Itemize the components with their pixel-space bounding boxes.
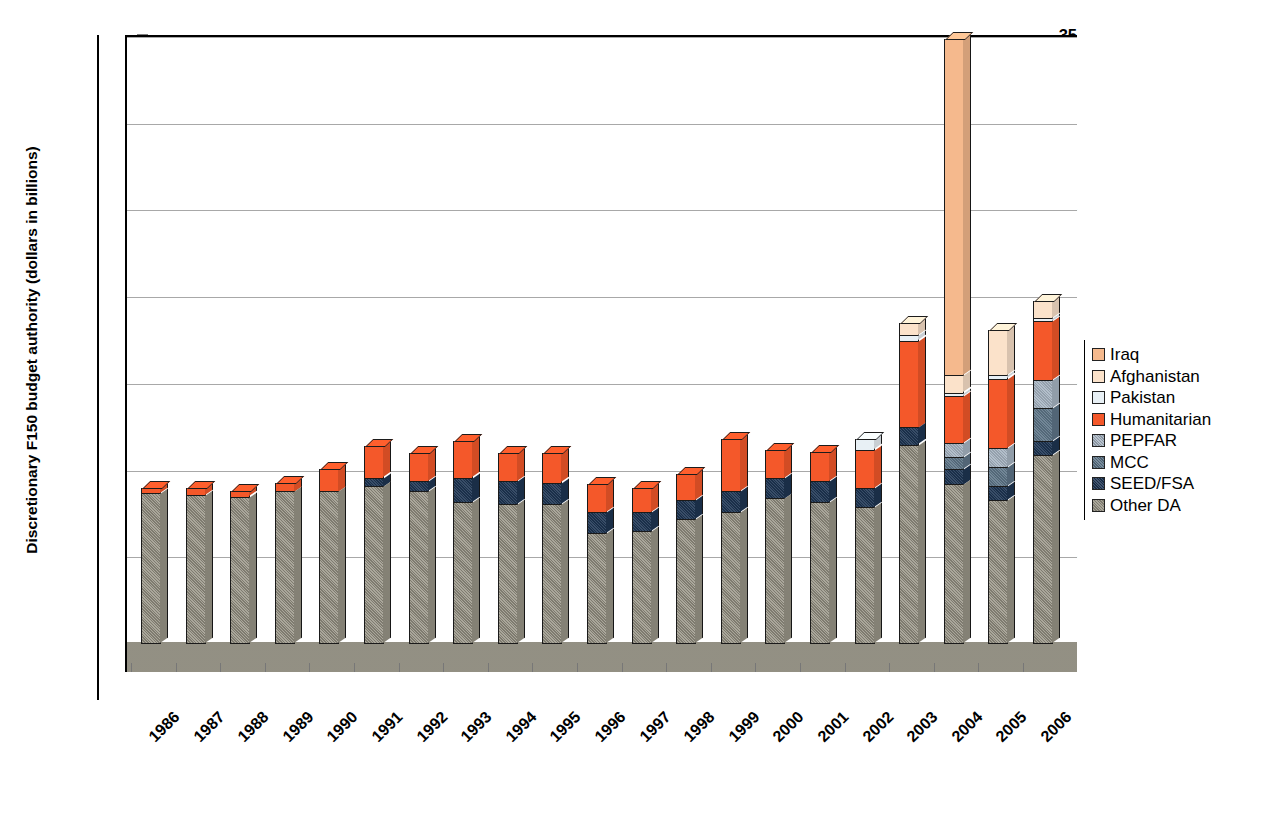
bar-segment[interactable] xyxy=(855,439,875,449)
bar-segment[interactable] xyxy=(721,512,741,644)
bar-stack[interactable] xyxy=(319,469,339,644)
bar-stack[interactable] xyxy=(1033,301,1053,644)
bar-segment[interactable] xyxy=(988,486,1008,500)
bar-segment[interactable] xyxy=(988,379,1008,448)
bar-segment[interactable] xyxy=(944,469,964,485)
legend-item-seed-fsa[interactable]: SEED/FSA xyxy=(1092,473,1282,495)
bar-stack[interactable] xyxy=(676,474,696,644)
legend-item-iraq[interactable]: Iraq xyxy=(1092,344,1282,366)
bar-segment[interactable] xyxy=(364,486,384,644)
legend-item-humanitarian[interactable]: Humanitarian xyxy=(1092,409,1282,431)
bar-segment[interactable] xyxy=(899,341,919,428)
bar-segment[interactable] xyxy=(899,323,919,335)
bar-segment[interactable] xyxy=(364,478,384,487)
bar-segment[interactable] xyxy=(1033,321,1053,380)
bar-segment[interactable] xyxy=(275,491,295,644)
legend-item-mcc[interactable]: MCC xyxy=(1092,452,1282,474)
bar-segment[interactable] xyxy=(453,441,473,477)
bar-segment[interactable] xyxy=(275,483,295,492)
bar-segment[interactable] xyxy=(364,446,384,477)
bar-segment[interactable] xyxy=(587,484,607,512)
bar-stack[interactable] xyxy=(409,453,429,644)
bar-segment[interactable] xyxy=(721,439,741,491)
bar-segment[interactable] xyxy=(1033,408,1053,441)
bar-segment[interactable] xyxy=(721,491,741,512)
bar-stack[interactable] xyxy=(810,452,830,644)
bar-segment[interactable] xyxy=(141,493,161,644)
bar-segment[interactable] xyxy=(899,445,919,644)
bar-segment[interactable] xyxy=(899,427,919,444)
bar-segment[interactable] xyxy=(409,491,429,644)
x-axis-label: 1990 xyxy=(324,708,362,746)
bar-segment[interactable] xyxy=(186,495,206,644)
bar-segment[interactable] xyxy=(1033,441,1053,455)
bar-stack[interactable] xyxy=(498,453,518,644)
bar-segment[interactable] xyxy=(944,457,964,469)
bar-segment[interactable] xyxy=(498,504,518,644)
bar-stack[interactable] xyxy=(587,484,607,644)
bar-segment[interactable] xyxy=(855,488,875,507)
bar-segment[interactable] xyxy=(1033,455,1053,644)
bar-segment[interactable] xyxy=(988,330,1008,375)
bar-segment[interactable] xyxy=(855,507,875,644)
bar-segment[interactable] xyxy=(319,469,339,492)
bar-stack[interactable] xyxy=(632,488,652,644)
bar-segment[interactable] xyxy=(810,452,830,481)
bar-stack[interactable] xyxy=(988,330,1008,644)
bar-stack[interactable] xyxy=(364,446,384,644)
bar-segment[interactable] xyxy=(498,481,518,504)
bar-stack[interactable] xyxy=(855,439,875,644)
bar-stack[interactable] xyxy=(275,483,295,644)
bar-segment[interactable] xyxy=(542,453,562,482)
bar-segment[interactable] xyxy=(944,484,964,644)
bar-stack[interactable] xyxy=(453,441,473,644)
bar-segment[interactable] xyxy=(988,467,1008,486)
bar-segment[interactable] xyxy=(676,519,696,644)
bar-segment[interactable] xyxy=(542,504,562,644)
bar-stack[interactable] xyxy=(542,453,562,644)
bar-segment[interactable] xyxy=(765,498,785,644)
bar-segment[interactable] xyxy=(765,478,785,499)
x-tick-mark xyxy=(934,663,935,672)
bar-segment[interactable] xyxy=(944,396,964,443)
bar-segment[interactable] xyxy=(542,483,562,504)
bar-segment[interactable] xyxy=(810,502,830,644)
bar-stack[interactable] xyxy=(721,439,741,644)
legend-item-pakistan[interactable]: Pakistan xyxy=(1092,387,1282,409)
bar-segment[interactable] xyxy=(453,502,473,644)
bar-segment[interactable] xyxy=(409,453,429,481)
bar-segment[interactable] xyxy=(944,443,964,457)
bar-segment[interactable] xyxy=(944,375,964,392)
bar-stack[interactable] xyxy=(141,488,161,644)
bar-stack[interactable] xyxy=(186,488,206,644)
bar-segment[interactable] xyxy=(319,491,339,644)
bar-segment[interactable] xyxy=(587,533,607,644)
bar-segment[interactable] xyxy=(855,450,875,488)
y-axis-line xyxy=(97,35,99,700)
bar-segment[interactable] xyxy=(988,448,1008,467)
bar-segment[interactable] xyxy=(632,531,652,644)
bar-segment[interactable] xyxy=(676,500,696,519)
bar-segment[interactable] xyxy=(765,450,785,478)
bar-segment[interactable] xyxy=(988,500,1008,644)
bar-stack[interactable] xyxy=(765,450,785,644)
bar-segment[interactable] xyxy=(230,497,250,644)
bar-stack[interactable] xyxy=(899,323,919,644)
bar-segment[interactable] xyxy=(409,481,429,491)
bar-segment[interactable] xyxy=(632,512,652,531)
bar-segment[interactable] xyxy=(1033,380,1053,408)
bar-segment[interactable] xyxy=(676,474,696,500)
bar-stack[interactable] xyxy=(230,491,250,644)
bar-segment[interactable] xyxy=(453,478,473,502)
bar-segment[interactable] xyxy=(632,488,652,512)
bar-segment[interactable] xyxy=(1033,301,1053,318)
legend-item-afghanistan[interactable]: Afghanistan xyxy=(1092,366,1282,388)
bar-segment[interactable] xyxy=(944,39,964,375)
bar-segment[interactable] xyxy=(587,512,607,533)
legend-item-pepfar[interactable]: PEPFAR xyxy=(1092,430,1282,452)
legend-item-other-da[interactable]: Other DA xyxy=(1092,495,1282,517)
bar-segment[interactable] xyxy=(810,481,830,502)
bar-stack[interactable] xyxy=(944,39,964,644)
bar-segment[interactable] xyxy=(186,488,206,495)
bar-segment[interactable] xyxy=(498,453,518,481)
